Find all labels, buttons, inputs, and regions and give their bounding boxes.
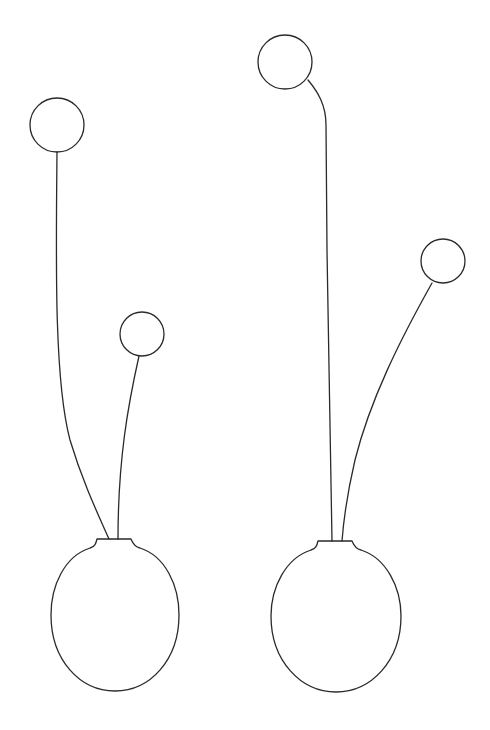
right-vase-body	[271, 541, 401, 692]
right-side-flower-head	[421, 239, 465, 283]
right-tall-flower-stem	[308, 80, 332, 541]
right-vase-group	[258, 35, 465, 692]
vases-illustration	[0, 0, 490, 730]
left-short-flower-head	[120, 312, 164, 356]
right-side-flower-stem	[342, 283, 432, 541]
left-tall-flower-stem	[56, 152, 109, 539]
left-tall-flower-head	[30, 98, 84, 152]
left-vase-body	[51, 539, 179, 691]
drawing-canvas: Line drawing of two round vases, each ho…	[0, 0, 490, 730]
right-tall-flower-head	[258, 35, 312, 89]
left-short-flower-stem	[118, 356, 139, 539]
left-vase-group	[30, 98, 179, 691]
